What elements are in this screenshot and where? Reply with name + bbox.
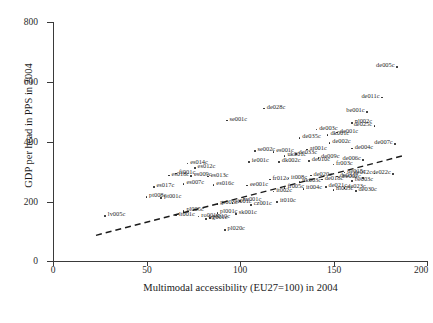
point-label: de002c [332, 138, 350, 144]
point-marker [303, 188, 305, 190]
point-marker [321, 179, 323, 181]
point-marker [325, 186, 327, 188]
point-label: be001c [346, 107, 364, 113]
point-marker [396, 66, 398, 68]
point-marker [381, 97, 383, 99]
point-label: nl005c [336, 185, 353, 191]
point-marker [224, 229, 226, 231]
point-marker [175, 215, 177, 217]
point-marker [366, 111, 368, 113]
point-label: de004c [355, 144, 373, 150]
point-marker [362, 159, 364, 161]
point-marker [160, 197, 162, 199]
point-label: de001c [340, 128, 358, 134]
point-label: de035c [302, 133, 320, 139]
point-label: gr003c [220, 199, 238, 205]
point-marker [355, 190, 357, 192]
point-marker [327, 134, 329, 136]
point-label: de011c [361, 93, 379, 99]
point-label: fr003c [336, 160, 353, 166]
point-marker [246, 185, 248, 187]
point-label: de010c [312, 156, 330, 162]
point-label: ie001c [252, 157, 269, 163]
point-label: dk002c [282, 157, 301, 163]
point-marker [187, 163, 189, 165]
point-label: fr012c [272, 175, 289, 181]
point-label: es009c [194, 171, 212, 177]
point-marker [205, 218, 207, 220]
point-marker [190, 175, 192, 177]
point-marker [209, 217, 211, 219]
point-marker [217, 203, 219, 205]
point-marker [374, 125, 376, 127]
point-marker [273, 151, 275, 153]
point-marker [333, 164, 335, 166]
point-marker [394, 143, 396, 145]
point-marker [213, 184, 215, 186]
point-label: es013c [211, 172, 229, 178]
point-marker [104, 215, 106, 217]
point-label: de005c [376, 62, 394, 68]
point-label: es017c [156, 182, 174, 188]
point-marker [299, 137, 301, 139]
point-label: sk001c [239, 209, 257, 215]
point-marker [351, 148, 353, 150]
point-label: cz001c [254, 200, 272, 206]
point-marker [336, 132, 338, 134]
point-label: lv005c [108, 211, 125, 217]
point-marker [308, 160, 310, 162]
point-marker [153, 186, 155, 188]
point-marker [146, 196, 148, 198]
point-marker [263, 108, 265, 110]
point-label: it004c [306, 184, 322, 190]
point-marker [269, 179, 271, 181]
point-marker [329, 142, 331, 144]
point-marker [316, 129, 318, 131]
point-marker [250, 204, 252, 206]
point-marker [235, 213, 237, 215]
point-marker [198, 216, 200, 218]
point-label: pl020c [228, 225, 245, 231]
point-marker [248, 161, 250, 163]
point-label: se001c [229, 116, 247, 122]
point-label: es018c [171, 171, 189, 177]
point-marker [351, 122, 353, 124]
point-label: de028c [267, 104, 285, 110]
point-label: pt001c [164, 193, 181, 199]
point-label: de022c [372, 169, 390, 175]
point-marker [276, 201, 278, 203]
point-marker [392, 173, 394, 175]
point-label: lt001c [179, 211, 195, 217]
point-marker [183, 183, 185, 185]
point-marker [333, 189, 335, 191]
point-label: ee001c [250, 181, 268, 187]
point-label: de007c [374, 139, 392, 145]
point-label: de030c [358, 186, 376, 192]
point-marker [278, 161, 280, 163]
point-label: es016c [216, 180, 234, 186]
point-marker [254, 150, 256, 152]
point-label: pl010c [213, 213, 230, 219]
point-marker [168, 175, 170, 177]
point-label: it002c [276, 187, 292, 193]
point-label: es012c [198, 163, 216, 169]
point-label: it010c [280, 197, 296, 203]
point-label: es007c [186, 179, 204, 185]
point-marker [226, 120, 228, 122]
point-marker [273, 191, 275, 193]
